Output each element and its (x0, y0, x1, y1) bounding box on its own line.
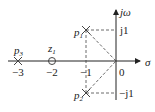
tick-j1: j1 (119, 24, 129, 36)
label-p2: p2 (73, 89, 84, 103)
label-p3: p3 (13, 44, 24, 58)
sigma-label: σ (145, 56, 151, 68)
label-p1: p1 (73, 26, 83, 40)
tick-minus2: −2 (46, 66, 58, 78)
label-z1: z1 (47, 42, 56, 56)
tick-minus-j1: −j1 (119, 87, 134, 99)
tick-minus3: −3 (12, 66, 24, 78)
pole-zero-plot: p1 p2 p3 z1 −3 −2 −1 0 j1 −j1 σ jω (0, 0, 155, 112)
jomega-label: jω (118, 6, 131, 18)
tick-0: 0 (119, 66, 125, 78)
tick-minus1: −1 (80, 66, 92, 78)
